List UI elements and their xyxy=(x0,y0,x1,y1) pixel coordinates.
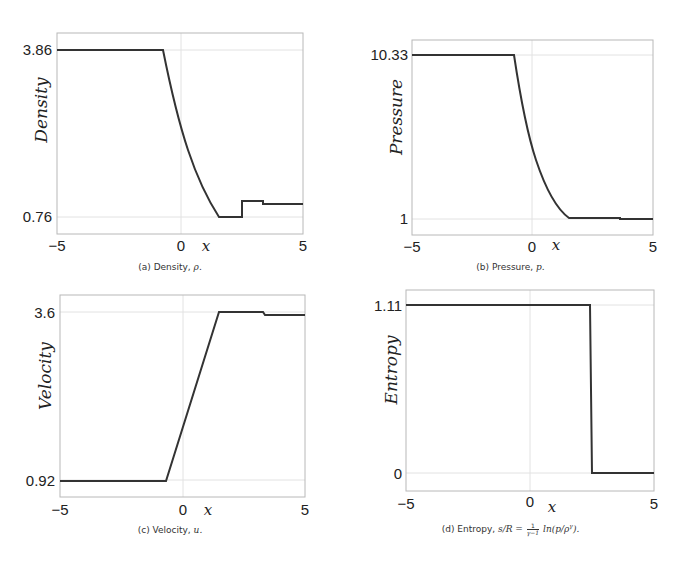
caption-density: (a) Density, ρ. xyxy=(0,262,340,272)
y-axis-label: Velocity xyxy=(35,342,55,410)
y-tick-min: 1 xyxy=(400,210,408,227)
y-tick-max: 1.11 xyxy=(374,297,402,314)
y-tick-min: 0.92 xyxy=(26,472,55,489)
x-axis-label: x xyxy=(548,498,557,516)
x-tick-min: −5 xyxy=(48,237,65,254)
x-axis-label: x xyxy=(552,236,561,254)
x-tick-max: 5 xyxy=(650,495,658,512)
density-chart: 3.86 0.76 −5 0 5 x Density xyxy=(0,0,340,280)
y-tick-max: 3.6 xyxy=(34,304,55,321)
panel-entropy: 1.11 0 −5 0 5 x Entropy (d) Entropy, s/R… xyxy=(340,280,681,561)
y-axis-label: Density xyxy=(31,77,51,144)
caption-entropy: (d) Entropy, s/R = 1γ−1 ln(p/ργ). xyxy=(340,522,681,536)
x-axis-label: x xyxy=(202,237,211,255)
grid xyxy=(406,290,654,491)
y-tick-max: 10.33 xyxy=(370,46,408,63)
x-tick-zero: 0 xyxy=(179,501,187,518)
x-tick-min: −5 xyxy=(397,495,414,512)
y-axis-label: Entropy xyxy=(381,335,401,405)
x-tick-max: 5 xyxy=(299,237,307,254)
x-tick-min: −5 xyxy=(51,501,68,518)
y-tick-max: 3.86 xyxy=(23,41,52,58)
y-tick-min: 0.76 xyxy=(23,208,52,225)
panel-density: 3.86 0.76 −5 0 5 x Density (a) Density, … xyxy=(0,0,340,280)
y-tick-min: 0 xyxy=(394,465,402,482)
x-tick-max: 5 xyxy=(649,238,657,255)
panel-pressure: 10.33 1 −5 0 5 x Pressure (b) Pressure, … xyxy=(340,0,681,280)
x-tick-zero: 0 xyxy=(177,237,185,254)
pressure-chart: 10.33 1 −5 0 5 x Pressure xyxy=(340,0,681,280)
panel-velocity: 3.6 0.92 −5 0 5 x Velocity (c) Velocity,… xyxy=(0,280,340,561)
caption-velocity: (c) Velocity, u. xyxy=(0,525,340,535)
x-tick-zero: 0 xyxy=(528,238,536,255)
velocity-chart: 3.6 0.92 −5 0 5 x Velocity xyxy=(0,280,340,561)
y-axis-label: Pressure xyxy=(386,79,406,156)
grid xyxy=(412,40,653,235)
x-axis-label: x xyxy=(204,501,213,519)
grid xyxy=(60,295,305,497)
entropy-chart: 1.11 0 −5 0 5 x Entropy xyxy=(340,280,681,561)
caption-pressure: (b) Pressure, p. xyxy=(340,262,681,272)
x-tick-max: 5 xyxy=(301,501,309,518)
density-curve xyxy=(57,50,303,217)
x-tick-zero: 0 xyxy=(526,493,534,510)
x-tick-min: −5 xyxy=(403,238,420,255)
